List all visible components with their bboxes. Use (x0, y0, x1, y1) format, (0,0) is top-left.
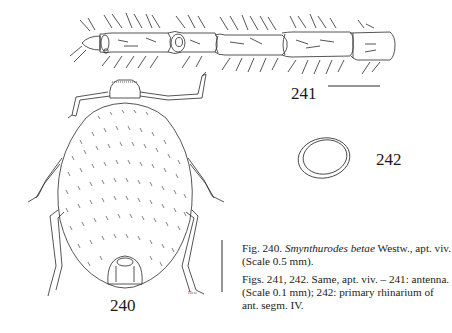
caption-240-species: Smynthurodes betae (285, 242, 375, 254)
figure-number-240: 240 (110, 296, 136, 316)
artist-signature: Heie (188, 290, 197, 295)
caption-figs-241-242: Figs. 241, 242. Same, apt. viv. – 241: a… (242, 273, 452, 312)
antenna-drawing (70, 13, 395, 86)
caption-fig-240: Fig. 240. Smynthurodes betae Westw., apt… (242, 242, 452, 268)
figure-number-242: 242 (376, 150, 402, 170)
aphid-drawing (28, 72, 224, 296)
caption-240-author: Westw., (378, 242, 413, 254)
caption-240-prefix: Fig. 240. (242, 242, 282, 254)
figure-number-241: 241 (291, 84, 317, 104)
rhinarium-drawing (295, 134, 353, 182)
figure-page: 241 242 240 Heie Fig. 240. Smynthurodes … (0, 0, 452, 333)
